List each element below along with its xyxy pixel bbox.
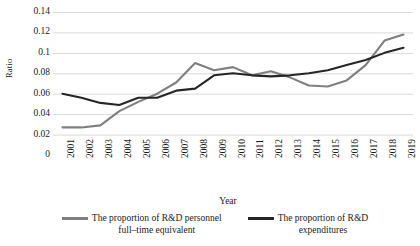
legend-label: The proportion of R&Dexpenditures: [278, 212, 369, 236]
x-tick-label: 2010: [228, 157, 239, 195]
x-tick-label: 2008: [190, 157, 201, 195]
y-tick-label: 0.02: [16, 130, 50, 140]
x-tick-text: 2004: [123, 139, 134, 158]
x-tick-text: 2002: [85, 139, 96, 158]
x-tick-label: 2006: [152, 157, 163, 195]
x-tick-text: 2009: [218, 139, 229, 158]
x-tick-text: 2016: [350, 139, 361, 158]
x-tick-text: 2013: [293, 139, 304, 158]
x-tick-text: 2005: [142, 139, 153, 158]
legend-label-line2: full–time equivalent: [92, 224, 222, 236]
x-tick-text: 2014: [312, 139, 323, 158]
x-tick-text: 2019: [407, 139, 418, 158]
y-tick-label: 0.14: [16, 7, 50, 17]
x-tick-label: 2002: [76, 157, 87, 195]
gridlines: [53, 13, 413, 156]
x-tick-label: 2018: [379, 157, 390, 195]
x-tick-label: 2011: [246, 157, 257, 195]
plot-area: [53, 12, 413, 155]
chart-legend: The proportion of R&D personnelfull–time…: [0, 212, 420, 246]
y-tick-label: 0.06: [16, 89, 50, 99]
y-tick-label: 0.1: [16, 48, 50, 58]
x-tick-text: 2007: [180, 139, 191, 158]
x-tick-text: 2003: [104, 139, 115, 158]
y-tick-label: 0.12: [16, 28, 50, 38]
x-tick-text: 2017: [369, 139, 380, 158]
x-tick-text: 2006: [161, 139, 172, 158]
x-tick-label: 2001: [57, 157, 68, 195]
x-tick-label: 2003: [95, 157, 106, 195]
series-line: [62, 34, 403, 127]
legend-item[interactable]: The proportion of R&D personnelfull–time…: [62, 212, 222, 236]
x-axis-tick-labels: 2001200220032004200520062007200820092010…: [53, 157, 413, 197]
x-tick-text: 2018: [388, 139, 399, 158]
y-axis-tick-labels: 0.140.120.10.080.060.040.020: [14, 0, 50, 246]
chart-figure: Ratio 0.140.120.10.080.060.040.020 20012…: [0, 0, 420, 246]
x-tick-label: 2019: [398, 157, 409, 195]
x-tick-label: 2013: [284, 157, 295, 195]
x-tick-text: 2012: [274, 139, 285, 158]
x-tick-label: 2009: [209, 157, 220, 195]
legend-label: The proportion of R&D personnelfull–time…: [92, 212, 222, 236]
x-tick-text: 2011: [255, 139, 266, 158]
x-tick-label: 2012: [265, 157, 276, 195]
y-tick-label: 0.04: [16, 109, 50, 119]
x-tick-text: 2001: [66, 139, 77, 158]
x-tick-label: 2014: [303, 157, 314, 195]
legend-swatch: [248, 217, 274, 220]
x-tick-label: 2004: [114, 157, 125, 195]
x-tick-label: 2016: [341, 157, 352, 195]
y-axis-title: Ratio: [4, 64, 14, 78]
x-tick-text: 2015: [331, 139, 342, 158]
x-tick-label: 2007: [171, 157, 182, 195]
x-tick-text: 2008: [199, 139, 210, 158]
y-tick-label: 0.08: [16, 69, 50, 79]
x-tick-label: 2005: [133, 157, 144, 195]
series-lines: [62, 34, 403, 127]
legend-label-line2: expenditures: [278, 224, 369, 236]
legend-item[interactable]: The proportion of R&Dexpenditures: [248, 212, 369, 236]
x-tick-label: 2015: [322, 157, 333, 195]
x-tick-text: 2010: [237, 139, 248, 158]
x-axis-title: Year: [0, 196, 420, 206]
x-tick-label: 2017: [360, 157, 371, 195]
plot-svg: [53, 12, 413, 155]
legend-swatch: [62, 217, 88, 220]
y-tick-label: 0: [16, 150, 50, 160]
